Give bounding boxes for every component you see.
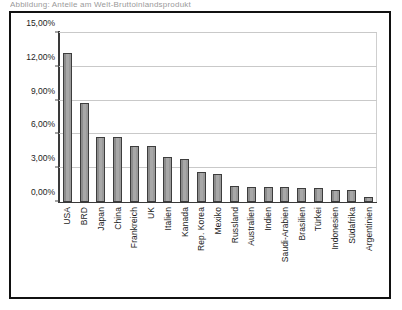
x-tick-label: Rep. Korea — [196, 207, 206, 251]
x-tick-label: UK — [146, 207, 156, 219]
x-label-slot: Australien — [243, 204, 260, 296]
x-label-slot: Indien — [260, 204, 277, 296]
y-tick-label: 15,00% — [26, 18, 55, 28]
bar-slot — [343, 33, 360, 202]
x-tick-label: Japan — [96, 207, 106, 231]
bar-slot — [360, 33, 377, 202]
bar-slot — [92, 33, 109, 202]
x-label-slot: China — [109, 204, 126, 296]
x-label-slot: Saudi-Arabien — [277, 204, 294, 296]
bar[interactable] — [264, 187, 273, 202]
bar[interactable] — [230, 186, 239, 202]
bar-slot — [159, 33, 176, 202]
bar[interactable] — [331, 190, 340, 202]
x-tick-label: Saudi-Arabien — [280, 207, 290, 262]
bar[interactable] — [63, 53, 72, 202]
bar[interactable] — [197, 172, 206, 202]
x-label-slot: Russland — [226, 204, 243, 296]
x-label-slot: Mexiko — [210, 204, 227, 296]
x-label-slot: Südafrika — [343, 204, 360, 296]
chart-plot-wrapper: 0,00%3,00%6,00%9,00%12,00%15,00% USABRDJ… — [11, 13, 389, 297]
x-label-slot: Kanada — [176, 204, 193, 296]
x-label-slot: Türkei — [310, 204, 327, 296]
x-label-slot: Brasilien — [293, 204, 310, 296]
x-tick-label: Brasilien — [297, 207, 307, 241]
bar[interactable] — [80, 103, 89, 202]
bar-slot — [226, 33, 243, 202]
bar-slot — [126, 33, 143, 202]
bar-slot — [210, 33, 227, 202]
x-tick-label: Argentinien — [364, 207, 374, 251]
y-tick-label: 12,00% — [26, 52, 55, 62]
plot-area: 0,00%3,00%6,00%9,00%12,00%15,00% — [59, 33, 377, 202]
bar[interactable] — [314, 188, 323, 202]
bar-slot — [109, 33, 126, 202]
x-tick-label: Mexiko — [213, 207, 223, 235]
bar[interactable] — [297, 188, 306, 202]
bar-slot — [76, 33, 93, 202]
chart-frame: 0,00%3,00%6,00%9,00%12,00%15,00% USABRDJ… — [9, 11, 391, 299]
x-tick-label: Italien — [163, 207, 173, 230]
bar[interactable] — [364, 197, 373, 202]
x-axis-labels: USABRDJapanChinaFrankreichUKItalienKanad… — [59, 204, 377, 296]
x-tick-label: Russland — [230, 207, 240, 243]
bar-slot — [277, 33, 294, 202]
bar[interactable] — [113, 137, 122, 202]
x-tick-label: Indonesien — [330, 207, 340, 250]
x-label-slot: Japan — [92, 204, 109, 296]
x-tick-label: USA — [62, 207, 72, 225]
x-tick-label: China — [113, 207, 123, 230]
x-tick-label: Kanada — [180, 207, 190, 237]
bar[interactable] — [347, 190, 356, 202]
bar[interactable] — [130, 146, 139, 202]
bar-slot — [59, 33, 76, 202]
x-tick-label: Türkei — [313, 207, 323, 231]
bar-slot — [310, 33, 327, 202]
x-tick-label: BRD — [79, 207, 89, 225]
x-tick-label: Indien — [263, 207, 273, 231]
bar-slot — [176, 33, 193, 202]
bar-slot — [293, 33, 310, 202]
bar-slot — [243, 33, 260, 202]
y-tick-label: 3,00% — [31, 153, 55, 163]
x-label-slot: Italien — [159, 204, 176, 296]
y-tick-label: 6,00% — [31, 119, 55, 129]
bar-slot — [143, 33, 160, 202]
bar[interactable] — [147, 146, 156, 202]
bar-slot — [260, 33, 277, 202]
bar-series — [59, 33, 377, 202]
x-tick-label: Südafrika — [347, 207, 357, 244]
y-tick-label: 9,00% — [31, 86, 55, 96]
bar[interactable] — [213, 174, 222, 202]
bar[interactable] — [96, 137, 105, 202]
bar[interactable] — [163, 157, 172, 202]
x-label-slot: UK — [143, 204, 160, 296]
x-tick-label: Frankreich — [129, 207, 139, 248]
x-label-slot: Argentinien — [360, 204, 377, 296]
y-tick-label: 0,00% — [31, 187, 55, 197]
bar[interactable] — [180, 159, 189, 202]
x-label-slot: BRD — [76, 204, 93, 296]
x-tick-label: Australien — [246, 207, 256, 246]
bar-slot — [193, 33, 210, 202]
x-label-slot: Frankreich — [126, 204, 143, 296]
x-label-slot: Indonesien — [327, 204, 344, 296]
bar[interactable] — [280, 187, 289, 202]
x-label-slot: Rep. Korea — [193, 204, 210, 296]
cut-off-title: Abbildung: Anteile am Welt-Bruttoinlands… — [10, 0, 270, 9]
bar[interactable] — [247, 187, 256, 202]
x-label-slot: USA — [59, 204, 76, 296]
bar-slot — [327, 33, 344, 202]
